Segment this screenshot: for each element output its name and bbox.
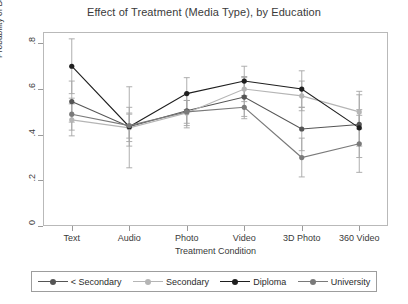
series-line: [72, 89, 360, 128]
series-university: [69, 105, 362, 160]
series-diploma: [69, 64, 362, 131]
legend-marker-icon: [38, 277, 68, 286]
legend-marker-icon: [298, 277, 328, 286]
data-point: [69, 112, 74, 117]
data-point: [357, 141, 362, 146]
data-point: [69, 64, 74, 69]
legend-item-university[interactable]: University: [298, 277, 371, 287]
error-bars-university: [69, 96, 363, 177]
legend-item-diploma[interactable]: Diploma: [220, 277, 286, 287]
x-axis-label: Treatment Condition: [43, 246, 388, 256]
legend-item--secondary[interactable]: < Secondary: [38, 277, 122, 287]
legend-item-secondary[interactable]: Secondary: [133, 277, 209, 287]
legend-dot: [232, 279, 238, 285]
data-point: [69, 117, 74, 122]
legend-label: Diploma: [253, 277, 286, 287]
legend-dot: [50, 279, 56, 285]
data-point: [357, 109, 362, 114]
legend-marker-icon: [220, 277, 250, 286]
series-line: [72, 66, 360, 128]
legend-marker-icon: [133, 277, 163, 286]
data-point: [299, 93, 304, 98]
data-point: [299, 126, 304, 131]
data-point: [357, 125, 362, 130]
data-point: [127, 123, 132, 128]
series-secondary: [69, 86, 362, 130]
data-point: [184, 91, 189, 96]
legend-label: < Secondary: [71, 277, 122, 287]
data-point: [242, 86, 247, 91]
legend-dot: [145, 279, 151, 285]
data-point: [242, 105, 247, 110]
chart-canvas: Effect of Treatment (Media Type), by Edu…: [0, 0, 408, 304]
legend: < SecondarySecondaryDiplomaUniversity: [31, 271, 377, 292]
data-point: [69, 99, 74, 104]
data-point: [299, 155, 304, 160]
legend-label: University: [331, 277, 371, 287]
legend-dot: [310, 279, 316, 285]
data-point: [299, 86, 304, 91]
legend-label: Secondary: [166, 277, 209, 287]
plot-series-layer: [0, 0, 408, 304]
series-line: [72, 107, 360, 157]
data-point: [184, 109, 189, 114]
series-line: [72, 97, 360, 129]
data-point: [242, 78, 247, 83]
error-bars-diploma: [69, 39, 363, 146]
data-point: [242, 94, 247, 99]
